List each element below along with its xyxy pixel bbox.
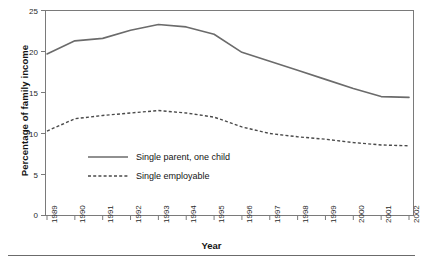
- x-tick-label-2002: 2002: [412, 205, 421, 223]
- series-line-single-employable: [47, 111, 409, 146]
- x-axis-title: Year: [0, 240, 423, 251]
- x-tick-label-2000: 2000: [357, 205, 366, 223]
- x-tick-label-1991: 1991: [106, 205, 115, 223]
- x-tick-label-1993: 1993: [162, 205, 171, 223]
- y-tick-marks: [41, 11, 46, 216]
- x-tick-label-1994: 1994: [189, 205, 198, 223]
- legend-label-single-employable: Single employable: [136, 171, 210, 181]
- chart-figure: Percentage of family income 25 20 15 10 …: [0, 0, 423, 262]
- x-tick-label-1996: 1996: [245, 205, 254, 223]
- plot-frame: [46, 11, 414, 216]
- series-line-single-parent-one-child: [47, 24, 409, 97]
- x-tick-marks: [47, 216, 409, 221]
- x-tick-label-1989: 1989: [50, 205, 59, 223]
- legend-label-single-parent-one-child: Single parent, one child: [136, 152, 230, 162]
- x-tick-label-1999: 1999: [329, 205, 338, 223]
- x-tick-label-1995: 1995: [217, 205, 226, 223]
- x-tick-label-1997: 1997: [273, 205, 282, 223]
- x-tick-label-1992: 1992: [134, 205, 143, 223]
- x-tick-label-1990: 1990: [78, 205, 87, 223]
- x-tick-label-2001: 2001: [384, 205, 393, 223]
- x-tick-label-1998: 1998: [301, 205, 310, 223]
